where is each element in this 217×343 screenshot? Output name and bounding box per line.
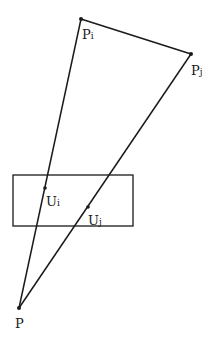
point-uj — [86, 205, 90, 209]
ray-p-pi — [19, 19, 81, 308]
label-pj: Pj — [191, 63, 203, 78]
label-p: P — [15, 316, 24, 331]
segment-pi-pj — [81, 19, 191, 54]
point-pj — [189, 52, 193, 56]
projection-diagram: Pi Pj P Ui Uj — [0, 0, 217, 343]
image-plane-rectangle — [13, 175, 133, 226]
point-pi — [79, 17, 83, 21]
ray-p-pj — [19, 54, 191, 308]
label-ui: Ui — [46, 194, 60, 209]
point-ui — [43, 186, 47, 190]
point-p — [17, 306, 21, 310]
label-pi: Pi — [82, 27, 94, 42]
label-uj: Uj — [88, 213, 102, 228]
